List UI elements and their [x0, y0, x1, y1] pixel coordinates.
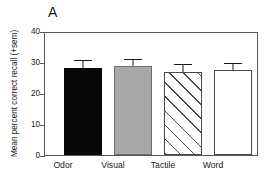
- x-tick-label-word: Word: [193, 160, 233, 170]
- x-tick-label-visual: Visual: [93, 160, 133, 170]
- plot-area: [44, 32, 258, 156]
- y-tick-label: 0: [26, 152, 40, 160]
- error-bar-stem: [83, 60, 84, 68]
- y-axis-title: Mean percent correct recall (+sem): [8, 31, 22, 157]
- bar-word: [214, 70, 252, 155]
- x-tick-label-tactile: Tactile: [143, 160, 183, 170]
- y-tick-label: 30: [26, 59, 40, 67]
- error-bar-word: [214, 63, 252, 70]
- bar-tactile: [164, 72, 202, 155]
- y-tick-label: 40: [26, 28, 40, 36]
- error-bar-stem: [233, 63, 234, 70]
- error-bar-cap: [74, 60, 92, 61]
- x-tick-label-odor: Odor: [43, 160, 83, 170]
- error-bar-cap: [224, 63, 242, 64]
- bar-odor: [64, 68, 102, 155]
- error-bar-visual: [114, 59, 152, 66]
- figure-panel-a: A Mean percent correct recall (+sem) 0 1…: [0, 0, 279, 184]
- error-bar-stem: [183, 64, 184, 72]
- error-bar-stem: [133, 59, 134, 66]
- panel-label: A: [48, 4, 58, 20]
- y-tick-label: 10: [26, 121, 40, 129]
- error-bar-cap: [124, 59, 142, 60]
- error-bar-cap: [174, 64, 192, 65]
- y-tick-mark: [40, 156, 45, 157]
- error-bar-odor: [64, 60, 102, 68]
- bar-visual: [114, 66, 152, 155]
- y-tick-label: 20: [26, 90, 40, 98]
- error-bar-tactile: [164, 64, 202, 72]
